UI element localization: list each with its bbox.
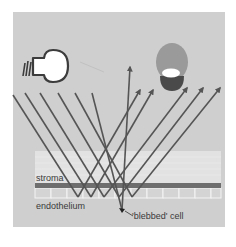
stroma-label: stroma: [36, 173, 64, 183]
blebbed-cell-label: 'blebbed' cell: [132, 211, 183, 221]
endothelium-label: endothelium: [36, 201, 85, 211]
specular-reflection-diagram: stroma endothelium 'blebbed' cell: [0, 0, 236, 247]
